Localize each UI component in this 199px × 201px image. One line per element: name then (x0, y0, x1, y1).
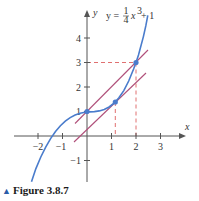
svg-text:y =: y = (106, 10, 120, 21)
caption-text: Figure 3.8.7 (13, 184, 69, 196)
y-tick-label: 4 (76, 33, 81, 44)
x-tick-label: −1 (56, 141, 67, 152)
svg-text:+ 1: + 1 (141, 10, 154, 21)
axes (14, 14, 182, 182)
y-axis-arrow-icon (84, 10, 90, 17)
cubic-curve (32, 15, 148, 181)
point-0-1 (84, 109, 89, 114)
y-axis-label: y (92, 7, 98, 18)
x-tick-label: 2 (134, 141, 139, 152)
y-tick-label: 2 (76, 82, 81, 93)
x-axis-arrow-icon (179, 133, 186, 139)
point-tangent (113, 99, 118, 104)
svg-text:4: 4 (124, 14, 129, 25)
dashed-guides (87, 63, 136, 137)
y-tick-label: −1 (70, 155, 81, 166)
x-tick-label: −2 (33, 141, 44, 152)
figure-caption: ▲Figure 3.8.7 (2, 184, 69, 196)
svg-text:x: x (130, 10, 136, 21)
tangent-line (74, 73, 146, 142)
point-2-3 (133, 60, 138, 65)
x-tick-label: 3 (158, 141, 163, 152)
y-tick-label: 3 (76, 57, 81, 68)
triangle-marker-icon: ▲ (2, 186, 11, 196)
figure-plot: −2 −1 1 2 3 4 3 2 1 −1 y x y = 1 4 x 3 +… (0, 0, 199, 184)
x-axis-label: x (184, 121, 190, 132)
x-tick-label: 1 (109, 141, 114, 152)
